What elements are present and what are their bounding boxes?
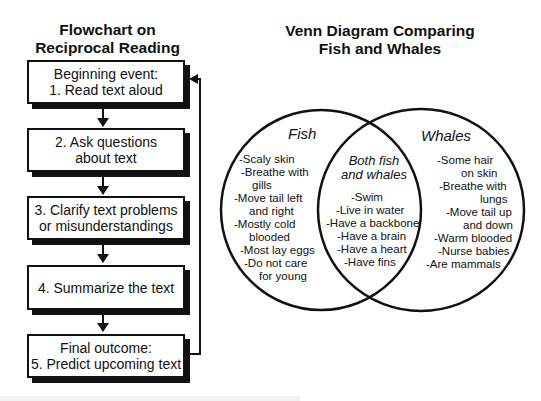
fish-trait: -Move tail left [234,192,302,205]
fish-label: Fish [288,125,316,142]
fish-trait: for young [259,270,307,283]
shared-trait: -Have fins [344,256,396,269]
both-label: Both fish and whales [329,154,419,182]
shared-trait: -Have a heart [337,243,407,256]
whale-trait: and down [463,219,513,232]
down-arrow-icon [97,107,109,332]
whale-trait: -Some hair [437,154,493,167]
whale-trait: -Nurse babies [438,245,510,258]
fish-trait: -Do not care [244,257,307,270]
shared-trait: -Have a brain [337,230,406,243]
fish-trait: blooded [249,231,290,244]
shared-trait: -Have a backbone [326,217,419,230]
venn-title: Venn Diagram Comparing Fish and Whales [280,22,480,58]
fish-trait: -Breathe with [241,166,309,179]
whale-trait: -Are mammals [426,258,501,271]
whale-trait: -Warm blooded [434,232,512,245]
venn-title-line1: Venn Diagram Comparing [280,22,480,40]
shared-trait: -Live in water [336,204,404,217]
fish-trait: and right [249,205,294,218]
venn-title-line2: Fish and Whales [280,40,480,58]
whale-trait: -Breathe with [439,180,507,193]
cropped-caption-remnant [0,396,300,401]
whale-trait: lungs [480,193,508,206]
feedback-loop-arrow-icon [189,74,200,354]
fish-trait: -Most lay eggs [240,244,315,257]
whales-label: Whales [421,127,471,144]
whale-trait: on skin [461,167,497,180]
fish-trait: -Mostly cold [234,218,295,231]
whale-trait: -Move tail up [446,206,512,219]
fish-trait: -Scaly skin [239,153,295,166]
both-label-line2: and whales [329,168,419,182]
fish-trait: gills [252,179,272,192]
shared-trait: -Swim [351,191,383,204]
both-label-line1: Both fish [329,154,419,168]
